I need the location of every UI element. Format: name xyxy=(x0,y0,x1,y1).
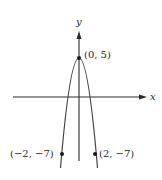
vertex-point xyxy=(77,56,81,60)
x-axis-arrow-icon xyxy=(139,95,147,100)
left-point-label: (−2, −7) xyxy=(10,148,54,159)
y-axis-arrow-icon xyxy=(77,31,82,39)
y-axis-label: y xyxy=(75,16,82,27)
graph-svg: x y (0, 5) (−2, −7) (2, −7) xyxy=(0,0,162,180)
parabola-graph: x y (0, 5) (−2, −7) (2, −7) xyxy=(0,0,162,180)
left-point xyxy=(60,152,64,156)
x-axis-label: x xyxy=(150,91,156,102)
right-point xyxy=(93,152,97,156)
right-point-label: (2, −7) xyxy=(99,148,134,159)
vertex-label: (0, 5) xyxy=(84,49,111,60)
